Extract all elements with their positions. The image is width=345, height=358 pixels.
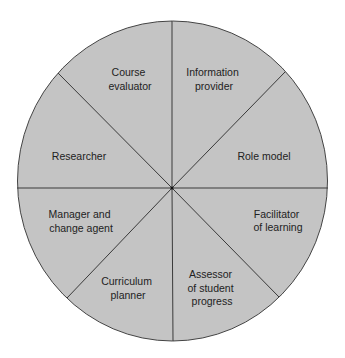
segment-label-facilitator-of-learning: Facilitator of learning bbox=[253, 208, 302, 233]
segment-label-assessor-of-student-progress: Assessor of student progress bbox=[187, 268, 236, 307]
roles-wheel-diagram: Information provider Role model Facilita… bbox=[0, 0, 345, 358]
segment-label-researcher: Researcher bbox=[52, 150, 107, 162]
wheel-hub bbox=[171, 187, 174, 190]
segment-label-role-model: Role model bbox=[237, 150, 290, 162]
